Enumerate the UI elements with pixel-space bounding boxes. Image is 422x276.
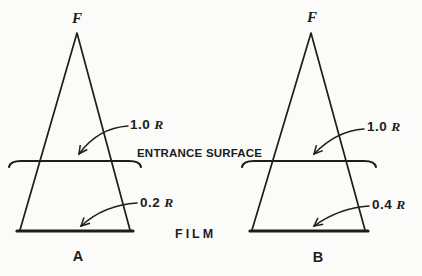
entrance-dose-label-b: 1.0R: [367, 120, 401, 134]
beam-cone-a: [20, 33, 130, 230]
entrance-surface-line-b: [242, 161, 376, 167]
entrance-dose-value-a: 1.0: [130, 117, 150, 132]
panel-caption-a: A: [69, 249, 87, 263]
figure-canvas: F 1.0R 0.2R A ENTRANCE SURFACE FILM F 1.…: [0, 0, 422, 276]
film-label: FILM: [175, 227, 216, 241]
entrance-dose-unit-a: R: [154, 117, 164, 132]
entrance-dose-label-a: 1.0R: [130, 118, 164, 132]
entrance-dose-value-b: 1.0: [367, 119, 387, 134]
entrance-surface-label: ENTRANCE SURFACE: [137, 146, 262, 160]
focus-label-b: F: [303, 10, 321, 24]
film-dose-value-a: 0.2: [140, 195, 160, 210]
film-dose-unit-b: R: [396, 197, 406, 212]
panel-caption-b: B: [309, 250, 327, 264]
film-dose-value-b: 0.4: [372, 197, 392, 212]
entrance-dose-unit-b: R: [391, 119, 401, 134]
focus-label-a: F: [68, 11, 86, 25]
film-dose-label-a: 0.2R: [140, 196, 174, 210]
entrance-surface-line-a: [9, 161, 141, 167]
film-dose-unit-a: R: [164, 195, 174, 210]
film-dose-label-b: 0.4R: [372, 198, 406, 212]
